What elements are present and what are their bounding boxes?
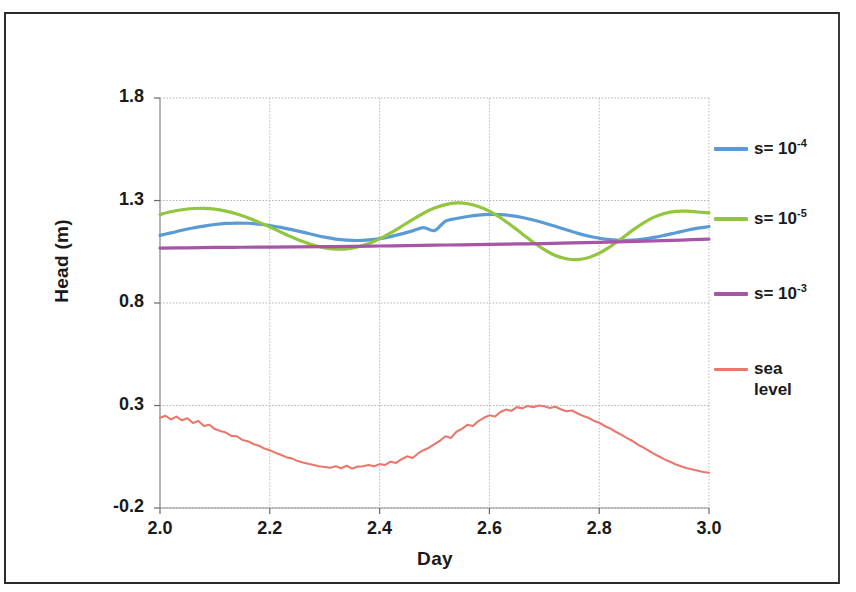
legend-entry: sea level: [714, 358, 792, 400]
legend-entry: s= 10-4: [714, 138, 807, 159]
legend-color-swatch: [714, 292, 748, 296]
y-tick-label: 0.8: [84, 291, 144, 312]
axis-ticks: [154, 98, 709, 514]
legend-color-swatch: [714, 217, 748, 221]
x-tick-label: 3.0: [674, 518, 744, 539]
y-tick-label: 1.8: [84, 86, 144, 107]
legend-color-swatch: [714, 147, 748, 151]
series-line-3: [160, 406, 709, 473]
y-tick-label: 0.3: [84, 394, 144, 415]
chart-figure: Head (m) Day -0.20.30.81.31.8 2.02.22.42…: [0, 0, 856, 592]
series-line-2: [160, 239, 709, 248]
x-axis-title: Day: [160, 548, 710, 570]
page-root: Head (m) Day -0.20.30.81.31.8 2.02.22.42…: [0, 0, 856, 592]
grid-lines: [160, 98, 709, 508]
y-tick-label: -0.2: [84, 496, 144, 517]
legend-entry: s= 10-5: [714, 208, 807, 229]
legend-color-swatch: [714, 368, 748, 371]
x-tick-label: 2.4: [345, 518, 415, 539]
legend-label: s= 10-4: [754, 138, 807, 159]
x-tick-label: 2.8: [564, 518, 634, 539]
x-tick-label: 2.6: [454, 518, 524, 539]
legend-label: sea level: [754, 358, 792, 400]
y-tick-label: 1.3: [84, 189, 144, 210]
x-tick-label: 2.0: [125, 518, 195, 539]
x-tick-label: 2.2: [235, 518, 305, 539]
legend-label: s= 10-3: [754, 283, 807, 304]
y-axis-title: Head (m): [51, 181, 73, 341]
legend-label: s= 10-5: [754, 208, 807, 229]
legend-entry: s= 10-3: [714, 283, 807, 304]
data-series-layer: [160, 203, 709, 473]
